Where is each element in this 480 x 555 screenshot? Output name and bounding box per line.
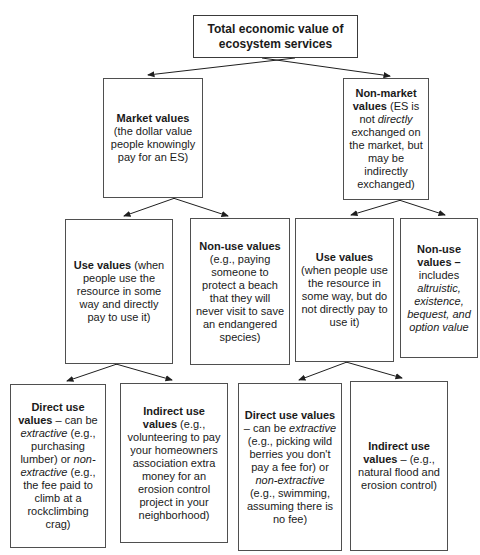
node-indirect-use-values-market: Indirect use values (e.g., volunteering … (120, 383, 228, 543)
edge-nonmarket-nonuse (399, 200, 445, 215)
edge-use-indirect-right (346, 362, 402, 378)
node-market-values: Market values (the dollar value people k… (103, 78, 203, 198)
node-non-use-values-market-label: Non-use values (e.g., paying someone to … (195, 240, 285, 344)
node-direct-use-values-nonmarket-label: Direct use values – can be extractive (e… (243, 409, 337, 526)
edge-use-direct-right (299, 362, 347, 380)
edge-nonmarket-use (351, 200, 401, 215)
node-total-economic-value: Total economic value of ecosystem servic… (193, 15, 358, 58)
node-use-values-market-label: Use values (when people use the resource… (70, 259, 168, 324)
ecosystem-value-diagram: Total economic value of ecosystem servic… (0, 0, 480, 555)
node-non-use-values-nonmarket: Non-use values – includes altruistic, ex… (400, 218, 478, 358)
node-use-values-nonmarket-label: Use values (when people use the resource… (300, 251, 389, 329)
node-non-market-values-label: Non-market values (ES is not directly ex… (348, 87, 424, 191)
node-use-values-market: Use values (when people use the resource… (65, 219, 173, 364)
node-non-market-values: Non-market values (ES is not directly ex… (343, 78, 429, 200)
node-indirect-use-values-nonmarket-label: Indirect use values – (e.g., natural flo… (355, 440, 443, 492)
edge-total-nonmarket (262, 58, 390, 76)
edge-total-market (148, 58, 295, 75)
node-indirect-use-values-market-label: Indirect use values (e.g., volunteering … (125, 405, 223, 522)
node-indirect-use-values-nonmarket: Indirect use values – (e.g., natural flo… (350, 381, 448, 551)
edge-use-direct-left (67, 364, 117, 381)
node-direct-use-values-market-label: Direct use values – can be extractive (e… (15, 401, 101, 531)
node-use-values-nonmarket: Use values (when people use the resource… (295, 218, 394, 362)
edge-use-indirect-left (116, 364, 172, 380)
edge-market-use (124, 198, 175, 216)
node-total-economic-value-label: Total economic value of ecosystem servic… (198, 22, 353, 52)
node-direct-use-values-nonmarket: Direct use values – can be extractive (e… (238, 383, 342, 551)
node-direct-use-values-market: Direct use values – can be extractive (e… (10, 384, 106, 548)
node-non-use-values-market: Non-use values (e.g., paying someone to … (190, 218, 290, 365)
node-non-use-values-nonmarket-label: Non-use values – includes altruistic, ex… (405, 243, 473, 334)
edge-market-nonuse (173, 198, 228, 216)
node-market-values-label: Market values (the dollar value people k… (108, 112, 198, 164)
